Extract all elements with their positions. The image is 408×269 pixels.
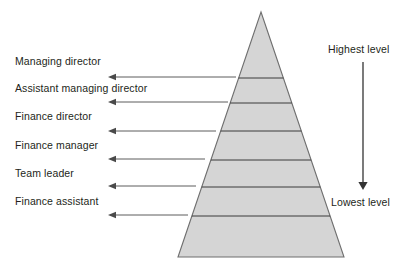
diagram-canvas: Managing directorAssistant managing dire… xyxy=(0,0,408,269)
role-arrow-head-1 xyxy=(108,74,116,80)
role-arrow-4 xyxy=(108,156,205,162)
role-arrow-6 xyxy=(108,212,188,218)
role-arrow-head-3 xyxy=(108,128,116,134)
role-arrow-head-2 xyxy=(108,99,116,105)
level-direction-arrow xyxy=(358,62,367,190)
role-arrow-3 xyxy=(108,128,216,134)
hierarchy-pyramid-diagram xyxy=(0,0,408,269)
level-arrow-head xyxy=(358,182,367,190)
lowest-level-label: Lowest level xyxy=(331,196,390,208)
role-arrow-2 xyxy=(108,99,228,105)
role-arrow-5 xyxy=(108,183,196,189)
role-label-1: Managing director xyxy=(15,55,101,67)
role-label-5: Team leader xyxy=(15,167,74,179)
role-arrow-1 xyxy=(108,74,236,80)
role-arrow-head-6 xyxy=(108,212,116,218)
role-label-4: Finance manager xyxy=(15,139,98,151)
pyramid-shape xyxy=(178,12,344,257)
role-label-6: Finance assistant xyxy=(15,195,98,207)
role-label-2: Assistant managing director xyxy=(15,82,147,94)
highest-level-label: Highest level xyxy=(328,43,389,55)
role-arrow-head-4 xyxy=(108,156,116,162)
role-arrow-head-5 xyxy=(108,183,116,189)
pyramid-triangle xyxy=(178,12,344,257)
role-label-3: Finance director xyxy=(15,110,92,122)
